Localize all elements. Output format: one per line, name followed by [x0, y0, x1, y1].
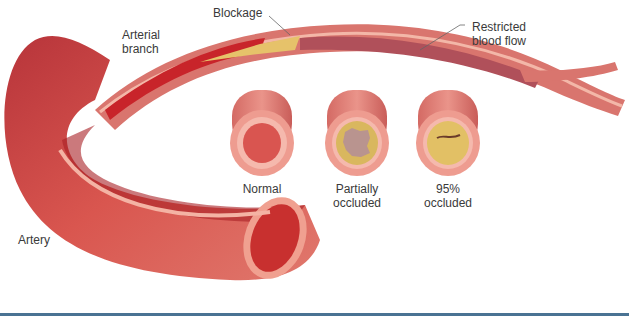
- label-line: occluded: [322, 196, 392, 210]
- label-line: 95%: [413, 182, 483, 196]
- arterial-branch-label: Arterial branch: [122, 28, 160, 56]
- normal-label: Normal: [232, 182, 292, 196]
- artery-diagram: Arterial branch Blockage Restricted bloo…: [0, 0, 629, 322]
- cross-section-95: [416, 90, 480, 176]
- cross-section-partial: [325, 90, 389, 176]
- label-line: occluded: [413, 196, 483, 210]
- label-line: Normal: [232, 182, 292, 196]
- label-line: Partially: [322, 182, 392, 196]
- label-line: blood flow: [472, 34, 526, 48]
- label-line: Restricted: [472, 20, 526, 34]
- artery-illustration: [0, 0, 629, 322]
- divider-rule: [0, 313, 629, 316]
- label-line: Arterial: [122, 28, 160, 42]
- partial-label: Partially occluded: [322, 182, 392, 210]
- cross-section-normal: [230, 90, 294, 176]
- artery-label: Artery: [18, 233, 50, 247]
- restricted-flow-label: Restricted blood flow: [472, 20, 526, 48]
- severe-label: 95% occluded: [413, 182, 483, 210]
- blockage-label: Blockage: [213, 6, 262, 20]
- label-line: branch: [122, 42, 160, 56]
